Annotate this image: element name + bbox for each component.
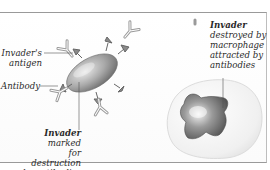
label-invader-destroyed: Invader destroyed by macrophage attracte…: [210, 20, 270, 70]
label-antibody: Antibody: [0, 81, 40, 91]
label-invaders-antigen: Invader's antigen: [0, 48, 42, 68]
label-invader-marked: Invader marked for destruction by antibo…: [20, 128, 81, 170]
engulfed-invader: [180, 94, 227, 139]
